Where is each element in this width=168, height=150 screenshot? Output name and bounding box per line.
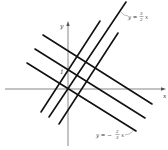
svg-text:3: 3 [140, 11, 143, 16]
svg-text:x: x [145, 14, 149, 20]
svg-text:2: 2 [115, 129, 119, 134]
x-axis-label: x [163, 92, 167, 99]
svg-text:x: x [121, 132, 125, 138]
line-families-diagram: x y 1 y = 3 2 x y = − 2 3 x [0, 0, 168, 150]
leader-line-icon [125, 130, 134, 135]
svg-text:2: 2 [139, 17, 143, 22]
leader-line-icon [121, 12, 128, 16]
svg-text:3: 3 [116, 135, 119, 140]
line-y-neg-2-3x-plus-1 [35, 49, 145, 118]
label-y-neg-2-3x: y = − 2 3 x [95, 129, 134, 140]
label-y-3-2x: y = 3 2 x [121, 11, 149, 22]
y-axis-arrow-icon [66, 21, 69, 26]
svg-text:y = −: y = − [95, 132, 112, 139]
svg-text:y =: y = [127, 14, 138, 21]
line-family-slope-neg-2-3 [27, 35, 152, 131]
line-y-neg-2-3x [27, 63, 136, 131]
tick-label-1: 1 [60, 68, 64, 75]
line-y-3-2x [41, 21, 100, 112]
x-axis-arrow-icon [161, 87, 166, 90]
line-family-slope-3-2 [41, 2, 126, 124]
y-axis-label: y [59, 22, 64, 30]
